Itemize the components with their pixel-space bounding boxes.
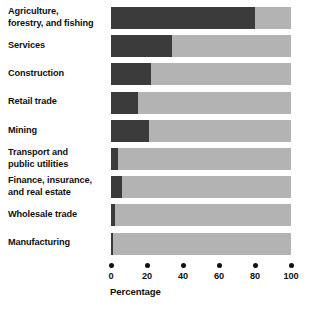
axis-tick-dot	[145, 263, 150, 268]
bar-segment-dark	[111, 7, 255, 29]
bar-segment-dark	[111, 63, 151, 85]
bar-segment-dark	[111, 148, 118, 170]
bar-row	[111, 148, 291, 170]
bar-segment-dark	[111, 176, 122, 198]
axis-tick-label: 20	[132, 271, 162, 281]
category-label: Finance, insurance,and real estate	[8, 175, 106, 198]
bar-row	[111, 63, 291, 85]
axis-tick-label: 80	[240, 271, 270, 281]
category-label-line: Construction	[8, 68, 106, 80]
bar-segment-dark	[111, 120, 149, 142]
stacked-bar-chart: Agriculture,forestry, and fishingService…	[0, 0, 310, 311]
axis-tick-dot	[217, 263, 222, 268]
category-label-line: Wholesale trade	[8, 209, 106, 221]
category-label: Retail trade	[8, 96, 106, 108]
category-label-line: Mining	[8, 125, 106, 137]
axis-tick-dot	[181, 263, 186, 268]
category-label: Services	[8, 40, 106, 52]
category-label: Wholesale trade	[8, 209, 106, 221]
category-label: Manufacturing	[8, 237, 106, 249]
axis-tick-label: 60	[204, 271, 234, 281]
bar-row	[111, 7, 291, 29]
bar-row	[111, 92, 291, 114]
bar-segment-light	[255, 7, 291, 29]
bar-segment-dark	[111, 35, 172, 57]
bar-row	[111, 120, 291, 142]
bar-row	[111, 35, 291, 57]
category-label-line: and real estate	[8, 187, 106, 199]
category-label: Transport andpublic utilities	[8, 147, 106, 170]
axis-tick-label: 40	[168, 271, 198, 281]
bar-segment-light	[172, 35, 291, 57]
category-label: Mining	[8, 125, 106, 137]
axis-tick-dot	[289, 263, 294, 268]
category-label: Construction	[8, 68, 106, 80]
bar-segment-light	[122, 176, 291, 198]
axis-tick-dot	[253, 263, 258, 268]
bar-segment-dark	[111, 92, 138, 114]
category-label-line: Retail trade	[8, 96, 106, 108]
category-label-line: Transport and	[8, 147, 106, 159]
bar-segment-light	[149, 120, 291, 142]
category-label-line: Finance, insurance,	[8, 175, 106, 187]
category-label-line: Agriculture,	[8, 6, 106, 18]
bar-segment-light	[113, 233, 291, 255]
category-label-line: forestry, and fishing	[8, 18, 106, 30]
category-label-line: public utilities	[8, 159, 106, 171]
bar-segment-light	[151, 63, 291, 85]
bar-row	[111, 233, 291, 255]
bar-segment-light	[138, 92, 291, 114]
bar-segment-light	[115, 204, 291, 226]
x-axis-title: Percentage	[110, 286, 161, 297]
axis-tick-dot	[109, 263, 114, 268]
axis-tick-label: 0	[96, 271, 126, 281]
bar-row	[111, 176, 291, 198]
axis-tick-label: 100	[276, 271, 306, 281]
category-label-line: Manufacturing	[8, 237, 106, 249]
bar-row	[111, 204, 291, 226]
category-label: Agriculture,forestry, and fishing	[8, 6, 106, 29]
bar-segment-light	[118, 148, 291, 170]
category-label-line: Services	[8, 40, 106, 52]
